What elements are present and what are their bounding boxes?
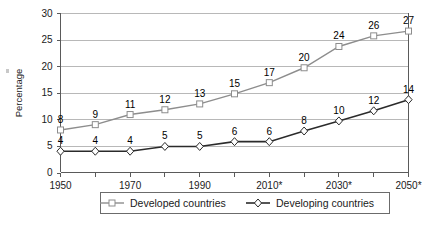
y-tick-label: 5 bbox=[47, 140, 53, 151]
data-point-label: 4 bbox=[127, 135, 133, 146]
data-point-label: 4 bbox=[58, 135, 64, 146]
x-tick-label: 1950 bbox=[49, 180, 72, 191]
scan-artifact-speck bbox=[6, 69, 9, 73]
data-point-label: 12 bbox=[368, 95, 380, 106]
data-point-label: 15 bbox=[229, 78, 241, 89]
data-point-label: 24 bbox=[333, 30, 345, 41]
data-point-label: 5 bbox=[197, 130, 203, 141]
data-point-marker-developed bbox=[92, 122, 98, 128]
y-tick-label: 15 bbox=[41, 87, 53, 98]
x-tick-label: 2030* bbox=[326, 180, 352, 191]
y-tick-label: 0 bbox=[47, 167, 53, 178]
data-point-marker-developed bbox=[58, 127, 64, 133]
data-point-label: 20 bbox=[299, 52, 311, 63]
data-point-label: 8 bbox=[301, 115, 307, 126]
line-chart: 051015202530 1950197019902010*2030*2050*… bbox=[0, 0, 439, 226]
y-tick-label: 20 bbox=[41, 61, 53, 72]
y-tick-label: 30 bbox=[41, 8, 53, 19]
data-point-marker-developed bbox=[232, 91, 238, 97]
data-point-label: 10 bbox=[333, 105, 345, 116]
data-point-marker-developed bbox=[266, 80, 272, 86]
data-point-label: 5 bbox=[162, 130, 168, 141]
data-point-marker-developed bbox=[406, 28, 412, 34]
x-tick-label: 1970 bbox=[119, 180, 142, 191]
data-point-marker-developed bbox=[371, 33, 377, 39]
data-point-label: 9 bbox=[93, 109, 99, 120]
data-point-label: 13 bbox=[194, 88, 206, 99]
data-point-marker-developed bbox=[301, 65, 307, 71]
data-point-marker-developed bbox=[127, 112, 133, 118]
chart-container: 051015202530 1950197019902010*2030*2050*… bbox=[0, 0, 439, 226]
data-point-marker-developed bbox=[336, 43, 342, 49]
legend-label: Developing countries bbox=[276, 197, 374, 209]
data-point-label: 12 bbox=[159, 94, 171, 105]
data-point-label: 26 bbox=[368, 20, 380, 31]
x-tick-label: 1990 bbox=[189, 180, 212, 191]
data-point-marker-developed bbox=[197, 101, 203, 107]
data-point-label: 4 bbox=[93, 135, 99, 146]
data-point-label: 11 bbox=[125, 99, 136, 110]
legend-label: Developed countries bbox=[130, 197, 226, 209]
data-point-label: 6 bbox=[232, 126, 238, 137]
y-tick-label: 10 bbox=[41, 114, 53, 125]
y-axis-title: Percentage bbox=[13, 69, 24, 118]
y-tick-label: 25 bbox=[41, 34, 53, 45]
data-point-label: 6 bbox=[267, 126, 273, 137]
chart-legend: Developed countriesDeveloping countries bbox=[100, 193, 390, 214]
data-point-label: 27 bbox=[403, 15, 415, 26]
data-point-label: 8 bbox=[58, 114, 64, 125]
data-point-marker-developed bbox=[162, 107, 168, 113]
data-point-label: 17 bbox=[264, 67, 276, 78]
x-tick-label: 2050* bbox=[395, 180, 421, 191]
data-point-label: 14 bbox=[403, 84, 415, 95]
square-marker-icon bbox=[109, 200, 115, 206]
x-tick-label: 2010* bbox=[256, 180, 282, 191]
